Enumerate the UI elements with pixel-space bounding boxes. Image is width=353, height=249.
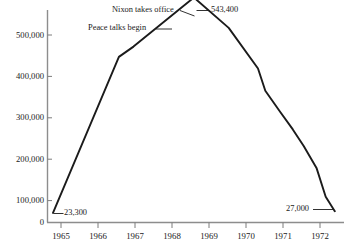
x-axis-label-1966: 1966 — [80, 232, 116, 241]
x-axis-label-1965: 1965 — [43, 232, 79, 241]
x-axis-label-1970: 1970 — [228, 232, 264, 241]
nixon-annotation-leader — [180, 11, 195, 17]
x-axis-label-1972: 1972 — [302, 232, 338, 241]
x-axis-label-1969: 1969 — [191, 232, 227, 241]
annotation-peace-talks-begin: Peace talks begin — [88, 24, 146, 32]
chart-container: 500,000 400,000 300,000 200,000 100,000 … — [0, 0, 353, 249]
x-axis-label-1968: 1968 — [154, 232, 190, 241]
y-axis-label-300000: 300,000 — [2, 113, 44, 122]
end-value-label: 27,000 — [286, 205, 309, 213]
y-axis-label-100000: 100,000 — [2, 196, 44, 205]
x-axis-ticks — [61, 223, 320, 229]
x-axis-label-1967: 1967 — [117, 232, 153, 241]
peak-value-label: 543,400 — [211, 6, 238, 14]
y-axis-label-400000: 400,000 — [2, 72, 44, 81]
y-axis-label-200000: 200,000 — [2, 155, 44, 164]
y-axis-label-0: 0 — [2, 218, 44, 227]
start-value-label: 23,300 — [64, 209, 87, 217]
annotation-nixon-takes-office: Nixon takes office — [112, 6, 174, 14]
y-axis-label-500000: 500,000 — [2, 31, 44, 40]
x-axis-label-1971: 1971 — [265, 232, 301, 241]
